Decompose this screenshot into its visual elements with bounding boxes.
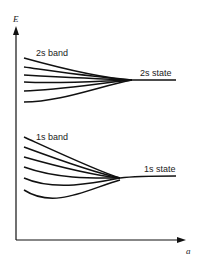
state-line-1s [120, 176, 176, 178]
band-label-1s: 1s band [36, 132, 68, 142]
y-axis-arrow [13, 26, 19, 35]
x-axis-arrow [177, 237, 186, 243]
curve-2s-6 [24, 80, 132, 102]
band-label-2s: 2s band [36, 48, 68, 58]
state-label-2s: 2s state [140, 68, 172, 78]
band-diagram: E a 2s band 2s state 1s band 1s state [0, 0, 198, 260]
curves-2s [24, 58, 176, 102]
state-label-1s: 1s state [144, 164, 176, 174]
curve-2s-3 [24, 75, 132, 80]
x-axis-label: a [186, 246, 191, 256]
y-axis-label: E [12, 14, 19, 24]
